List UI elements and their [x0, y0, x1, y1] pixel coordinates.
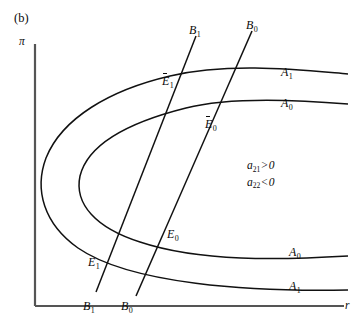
label-e-bar-0-sub: 0 [213, 124, 217, 133]
label-b1-top-text: B [189, 23, 196, 37]
label-a1-right-top-sub: 1 [289, 72, 293, 81]
label-b0-top-text: B [246, 18, 253, 32]
curve-b0 [136, 31, 252, 296]
label-e-bar-1: E1 [162, 75, 173, 87]
figure-panel-b: (b) π r B1 B0 A1 A0 A0 A1 B1 B0 E1 E0 E0… [0, 0, 356, 334]
label-b0-top: B0 [246, 19, 257, 31]
label-e-bar-1-sub: 1 [170, 81, 174, 90]
label-e-0-text: E [167, 227, 174, 241]
x-axis-label: r [345, 300, 349, 312]
condition-a21-val: 0 [269, 159, 275, 171]
label-e-0-sub: 0 [175, 234, 179, 243]
label-b1-top-sub: 1 [197, 30, 201, 39]
label-e-1-sub: 1 [96, 262, 100, 271]
label-e-bar-1-text: E [162, 75, 169, 87]
label-e-0: E0 [167, 228, 178, 240]
panel-tag: (b) [14, 12, 29, 25]
label-e-1: E1 [88, 256, 99, 268]
condition-a22-var: a [247, 176, 253, 188]
label-a0-right-top-text: A [281, 96, 288, 110]
label-b0-bottom: B0 [121, 300, 132, 312]
label-b0-bottom-sub: 0 [129, 306, 133, 315]
parameter-conditions: a21>0 a22<0 [247, 157, 275, 190]
label-b1-top: B1 [189, 24, 200, 36]
label-a1-right-bottom-text: A [289, 279, 296, 293]
condition-a21-var: a [247, 159, 253, 171]
y-axis-label: π [19, 36, 25, 48]
label-b0-bottom-text: B [121, 299, 128, 313]
label-e-bar-0-text: E [205, 118, 212, 130]
label-b1-bottom-text: B [83, 299, 90, 313]
label-e-bar-0: E0 [205, 118, 216, 130]
condition-a22-op: < [260, 176, 269, 188]
label-a1-right-bottom-sub: 1 [297, 286, 301, 295]
curve-b1 [96, 36, 196, 292]
condition-a22-sub: 22 [253, 181, 261, 190]
condition-a21-sub: 21 [253, 165, 261, 174]
diagram-canvas [0, 0, 356, 334]
condition-a21-op: > [260, 159, 269, 171]
condition-a22-val: 0 [269, 176, 275, 188]
label-a0-right-top-sub: 0 [289, 103, 293, 112]
label-b1-bottom: B1 [83, 300, 94, 312]
label-a0-right-bottom-text: A [289, 245, 296, 259]
label-b0-top-sub: 0 [254, 25, 258, 34]
label-a0-right-top: A0 [281, 97, 292, 109]
condition-a22: a22<0 [247, 174, 275, 191]
condition-a21: a21>0 [247, 157, 275, 174]
label-b1-bottom-sub: 1 [91, 306, 95, 315]
label-a1-right-top: A1 [281, 66, 292, 78]
label-a1-right-bottom: A1 [289, 280, 300, 292]
label-a0-right-bottom-sub: 0 [297, 252, 301, 261]
label-a0-right-bottom: A0 [289, 246, 300, 258]
label-e-1-text: E [88, 255, 95, 269]
label-a1-right-top-text: A [281, 65, 288, 79]
